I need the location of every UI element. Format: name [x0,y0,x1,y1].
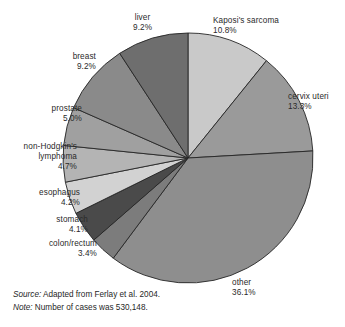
slice-label-percent: 3.4% [49,249,97,259]
note-label: Note: [13,303,33,312]
slice-label-name: esophagus [39,188,80,198]
slice-label-name: other [232,278,256,288]
slice-label-kaposis-sarcoma: Kaposi's sarcoma 10.8% [213,16,279,36]
slice-label-percent: 4.7% [24,162,77,172]
slice-label-name: liver [133,13,152,23]
slice-label-percent: 13.3% [288,102,329,112]
slice-label-name: prostate [52,104,82,114]
slice-label-percent: 9.2% [133,23,152,33]
slice-label-percent: 10.8% [213,26,279,36]
slice-label-breast: breast 9.2% [73,52,96,72]
slice-label-percent: 4.2% [39,198,80,208]
pie-chart-figure: Kaposi's sarcoma 10.8% cervix uteri 13.3… [0,0,345,327]
slice-label-name: breast [73,52,96,62]
slice-label-name: cervix uteri [288,92,329,102]
slice-label-percent: 4.1% [56,225,88,235]
slice-label-percent: 5.0% [52,114,82,124]
slice-label-percent: 9.2% [73,62,96,72]
note-line: Note: Number of cases was 530,148. [13,301,333,314]
slice-label-name: non-Hodgkin's [24,142,77,152]
slice-label-cervix-uteri: cervix uteri 13.3% [288,92,329,112]
slice-label-colon-rectum: colon/rectum 3.4% [49,239,97,259]
slice-label-prostate: prostate 5.0% [52,104,82,124]
slice-label-esophagus: esophagus 4.2% [39,188,80,208]
note-text: Number of cases was 530,148. [35,303,148,312]
slice-label-liver: liver 9.2% [133,13,152,33]
slice-label-non-hodgkins-lymphoma: non-Hodgkin's lymphoma 4.7% [24,142,77,173]
source-text: Adapted from Ferlay et al. 2004. [43,290,160,299]
pie-slice-group [63,33,313,283]
slice-label-name: stomach [56,215,88,225]
slice-label-stomach: stomach 4.1% [56,215,88,235]
figure-footnotes: Source: Adapted from Ferlay et al. 2004.… [13,288,333,314]
slice-label-name-line2: lymphoma [24,152,77,162]
slice-label-name: Kaposi's sarcoma [213,16,279,26]
slice-label-name: colon/rectum [49,239,97,249]
source-label: Source: [13,290,41,299]
source-line: Source: Adapted from Ferlay et al. 2004. [13,288,333,301]
